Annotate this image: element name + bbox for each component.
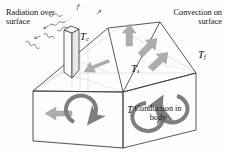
body-temperature-symbol: T [127, 82, 133, 117]
surface-temperature-symbol: Ts [131, 41, 139, 76]
fluid-temperature-base: T [198, 49, 204, 60]
ambient-temperature-sub: c [86, 35, 89, 42]
surface-temperature-sub: s [137, 67, 139, 74]
fluid-temperature-symbol: Tf [198, 27, 206, 62]
convection-label: Convection on surface [150, 8, 222, 26]
body-temperature-base: T [127, 104, 133, 115]
conduction-label: Conduction in body [125, 104, 191, 122]
ambient-temperature-symbol: Tc [80, 9, 89, 44]
diagram-canvas: Radiation over surface Convection on sur… [0, 0, 227, 153]
radiation-label: Radiation over surface [6, 8, 55, 26]
loop-front-wall [66, 96, 96, 122]
fluid-temperature-sub: f [204, 53, 206, 60]
surface-temperature-base: T [131, 63, 137, 74]
ambient-temperature-base: T [80, 31, 86, 42]
